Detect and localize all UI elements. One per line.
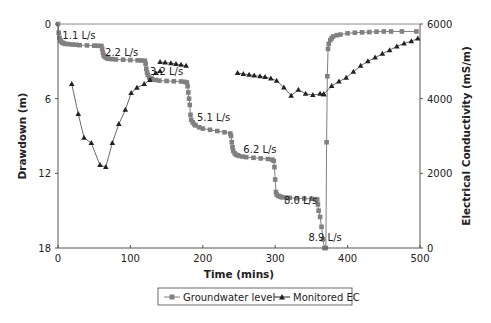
triangle-marker-icon <box>116 121 122 126</box>
triangle-marker-icon <box>141 81 147 86</box>
triangle-marker-icon <box>372 55 378 60</box>
ec-line <box>324 39 418 95</box>
square-marker-icon <box>345 31 350 36</box>
square-marker-icon <box>229 140 234 145</box>
triangle-marker-icon <box>97 162 103 167</box>
square-marker-icon <box>244 155 249 160</box>
legend-label-groundwater: Groundwater level <box>183 292 275 303</box>
triangle-marker-icon <box>235 70 241 75</box>
x-tick-label: 500 <box>410 253 429 264</box>
square-marker-icon <box>143 62 148 67</box>
triangle-marker-icon <box>303 91 309 96</box>
y-tick-label: 6 <box>45 94 51 105</box>
square-marker-icon <box>258 156 263 161</box>
legend-label-ec: Monitored EC <box>293 292 360 303</box>
square-marker-icon <box>272 165 277 170</box>
y2-tick-label: 2000 <box>427 168 452 179</box>
triangle-marker-icon <box>296 87 302 92</box>
triangle-marker-icon <box>365 58 371 63</box>
square-marker-icon <box>318 215 323 220</box>
square-marker-icon <box>187 103 192 108</box>
x-axis-title: Time (mins) <box>204 268 274 280</box>
square-marker-icon <box>316 208 321 213</box>
square-marker-icon <box>271 159 276 164</box>
flow-rate-label: 2.2 L/s <box>105 47 138 58</box>
square-marker-icon <box>326 47 331 52</box>
square-marker-icon <box>353 30 358 35</box>
triangle-marker-icon <box>157 59 163 64</box>
triangle-marker-icon <box>351 69 357 74</box>
y-axis-title-right: Electrical Conductivity (mS/m) <box>460 46 472 226</box>
x-tick-label: 400 <box>338 253 357 264</box>
flow-rate-label: 3.2 L/s <box>150 66 183 77</box>
square-marker-icon <box>164 79 169 84</box>
flow-rate-label: 1.1 L/s <box>62 30 95 41</box>
square-marker-icon <box>170 295 175 300</box>
square-marker-icon <box>128 58 133 63</box>
y-ticks-left: 061218 <box>38 19 58 254</box>
y2-tick-label: 4000 <box>427 94 452 105</box>
y-tick-label: 0 <box>45 19 51 30</box>
x-tick-label: 100 <box>121 253 140 264</box>
square-marker-icon <box>222 130 227 135</box>
square-marker-icon <box>325 74 330 79</box>
square-marker-icon <box>319 225 324 230</box>
triangle-marker-icon <box>69 81 75 86</box>
flow-rate-label: 8.0 L/s <box>284 195 317 206</box>
square-marker-icon <box>85 43 90 48</box>
square-marker-icon <box>266 157 271 162</box>
square-marker-icon <box>186 90 191 95</box>
ec-line <box>72 71 160 167</box>
square-marker-icon <box>389 29 394 34</box>
flow-rate-label: 8.9 L/s <box>309 232 342 243</box>
legend: Groundwater level Monitored EC <box>158 288 360 305</box>
triangle-marker-icon <box>329 83 335 88</box>
triangle-marker-icon <box>110 140 116 145</box>
y2-tick-label: 0 <box>427 243 433 254</box>
square-marker-icon <box>273 177 278 182</box>
square-marker-icon <box>208 127 213 132</box>
triangle-marker-icon <box>336 78 342 83</box>
square-marker-icon <box>338 32 343 37</box>
x-tick-label: 0 <box>55 253 61 264</box>
y-axis-title-left: Drawdown (m) <box>16 93 28 180</box>
y-ticks-right: 0200040006000 <box>420 19 452 254</box>
square-marker-icon <box>382 29 387 34</box>
square-marker-icon <box>56 30 61 35</box>
triangle-marker-icon <box>89 140 95 145</box>
square-marker-icon <box>400 29 405 34</box>
square-marker-icon <box>77 43 82 48</box>
triangle-marker-icon <box>134 85 140 90</box>
square-marker-icon <box>360 30 365 35</box>
triangle-marker-icon <box>380 51 386 56</box>
square-marker-icon <box>185 84 190 89</box>
x-tick-label: 200 <box>193 253 212 264</box>
square-marker-icon <box>187 96 192 101</box>
flow-rate-label: 6.2 L/s <box>243 144 276 155</box>
triangle-marker-icon <box>387 47 393 52</box>
square-marker-icon <box>374 29 379 34</box>
square-marker-icon <box>172 79 177 84</box>
square-marker-icon <box>324 140 329 145</box>
flow-rate-label: 5.1 L/s <box>197 112 230 123</box>
flow-rate-annotations: 1.1 L/s2.2 L/s3.2 L/s5.1 L/s6.2 L/s8.0 L… <box>62 30 341 243</box>
square-marker-icon <box>367 30 372 35</box>
chart: 0100200300400500 061218 0200040006000 Ti… <box>0 0 491 323</box>
square-marker-icon <box>157 78 162 83</box>
square-marker-icon <box>201 126 206 131</box>
square-marker-icon <box>251 155 256 160</box>
triangle-marker-icon <box>343 75 349 80</box>
square-marker-icon <box>188 113 193 118</box>
x-tick-label: 300 <box>266 253 285 264</box>
triangle-marker-icon <box>358 63 364 68</box>
y-tick-label: 18 <box>38 243 51 254</box>
y2-tick-label: 6000 <box>427 19 452 30</box>
y-tick-label: 12 <box>38 168 51 179</box>
square-marker-icon <box>215 129 220 134</box>
square-marker-icon <box>414 29 419 34</box>
triangle-marker-icon <box>75 111 81 116</box>
square-marker-icon <box>229 134 234 139</box>
triangle-marker-icon <box>81 135 87 140</box>
triangle-marker-icon <box>123 107 129 112</box>
